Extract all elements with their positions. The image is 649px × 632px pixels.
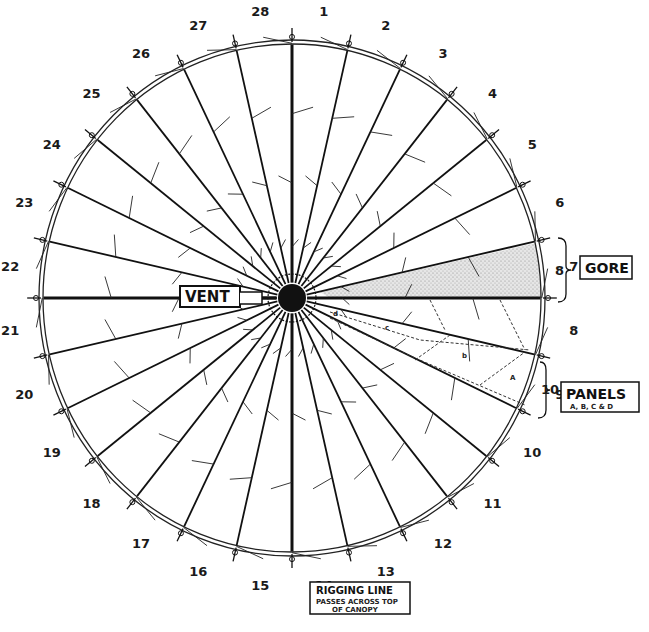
panel-seam	[271, 482, 292, 488]
gore-number: 19	[43, 445, 61, 460]
panel-seam	[252, 182, 267, 186]
panel-seam	[243, 329, 253, 330]
panel-seam	[207, 50, 236, 51]
panel-seam	[313, 478, 332, 489]
panel-seam	[433, 183, 451, 196]
gore-number: 4	[488, 86, 497, 101]
panel-letter-c: c	[385, 324, 389, 332]
panels-callout: 10 PANELS A, B, C & D	[538, 362, 639, 418]
panel-seam	[402, 257, 406, 272]
radial-seam	[307, 301, 535, 354]
panel-seam	[172, 298, 179, 312]
panel-seam	[468, 339, 469, 361]
gore-number: 1	[319, 4, 328, 19]
panel-seam	[279, 176, 292, 183]
panel-seam	[172, 272, 182, 284]
canopy-diagram: 1234567891011121314151617181920212223242…	[0, 0, 649, 632]
gore-number: 18	[82, 496, 100, 511]
gore-number: 16	[189, 564, 207, 579]
panel-seam	[105, 319, 116, 339]
panel-letter-b: b	[462, 352, 467, 360]
gore-number: 12	[434, 536, 452, 551]
gore-8-shading	[320, 243, 542, 298]
panel-seam	[292, 413, 305, 420]
gore-number: 23	[15, 195, 33, 210]
gore-number: 28	[251, 4, 269, 19]
gore-number: 21	[1, 323, 19, 338]
panel-seam	[348, 546, 377, 547]
panel-seam	[370, 132, 392, 135]
panel-seam	[332, 117, 354, 119]
panel-seam	[222, 388, 228, 402]
panel-seam	[114, 361, 129, 378]
panel-seam	[190, 226, 204, 232]
gore-callout: 8 GORE	[555, 238, 632, 302]
panel-seam	[207, 208, 222, 211]
panel-seam	[473, 298, 479, 319]
panel-seam	[405, 154, 425, 162]
gore-number: 27	[189, 18, 207, 33]
panel-seam	[267, 410, 279, 420]
panel-seam	[455, 218, 470, 235]
panels-sublabel: A, B, C & D	[570, 403, 613, 411]
radial-seam	[237, 313, 289, 545]
panel-seam	[230, 478, 252, 480]
gore-number: 2	[381, 18, 390, 33]
panel-seam	[392, 442, 405, 460]
rigging-line-title: RIGGING LINE	[316, 585, 393, 596]
panel-letter-d: d	[333, 310, 338, 318]
rigging-line-desc-1: PASSES ACROSS TOP	[316, 598, 398, 606]
panel-seam	[337, 276, 346, 279]
panels-label: PANELS	[566, 386, 626, 402]
panel-seam	[332, 182, 341, 194]
panel-seam	[178, 324, 182, 339]
gore-number: 7	[569, 259, 578, 274]
panel-seam	[114, 235, 115, 257]
gore-label: GORE	[585, 260, 629, 276]
vent-hole	[278, 284, 306, 312]
panel-seam	[159, 434, 179, 442]
gore-number: 15	[251, 578, 269, 593]
panel-seam	[377, 50, 400, 68]
panel-seam	[252, 107, 271, 118]
panel-seam	[214, 117, 230, 132]
gore-number: 8	[569, 323, 578, 338]
vent-callout: VENT	[180, 286, 276, 307]
panel-seam	[377, 211, 380, 226]
panel-seam	[362, 385, 377, 388]
panel-seam	[133, 400, 151, 413]
gore-number: 25	[82, 86, 100, 101]
panel-seam	[298, 348, 303, 357]
panel-seam	[281, 239, 286, 248]
panel-seam	[331, 266, 341, 267]
gore-number: 10	[523, 445, 541, 460]
panel-seam	[151, 162, 159, 183]
gore-number: 3	[438, 46, 447, 61]
panel-seam	[243, 402, 252, 414]
panel-seam	[380, 363, 394, 369]
panel-seam	[261, 248, 262, 258]
gore-number: 6	[555, 195, 564, 210]
gore-number: 5	[528, 137, 537, 152]
gore-number: 17	[132, 536, 150, 551]
panel-seam	[49, 355, 50, 385]
panel-seam	[49, 187, 67, 211]
panel-seam	[356, 194, 362, 208]
radial-seam	[295, 51, 347, 283]
gore-number: 24	[43, 137, 61, 152]
panel-seam	[535, 211, 536, 241]
panels-callout-number: 10	[541, 382, 559, 397]
panel-seam	[192, 461, 214, 464]
gore-callout-number: 8	[555, 263, 564, 278]
gore-number: 20	[15, 387, 33, 402]
panel-seam	[178, 248, 190, 257]
panel-seam	[354, 464, 370, 479]
radial-seam	[237, 51, 289, 283]
gore-number: 26	[132, 46, 150, 61]
panel-seam	[451, 378, 454, 400]
gore-number: 13	[377, 564, 395, 579]
rigging-line-callout: RIGGING LINE PASSES ACROSS TOP OF CANOPY	[310, 582, 410, 614]
panel-seam	[323, 338, 324, 348]
panel-seam	[105, 277, 111, 298]
radial-seam	[295, 313, 347, 545]
